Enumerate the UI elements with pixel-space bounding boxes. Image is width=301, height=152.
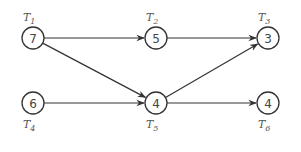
node-label: T4 <box>23 118 35 133</box>
edge-T1-T5 <box>43 43 146 97</box>
node-value: 7 <box>29 32 37 46</box>
node-T5: 4T5 <box>145 92 167 133</box>
edge-T5-T3 <box>166 44 258 97</box>
node-label: T2 <box>146 11 158 26</box>
node-T1: 7T1 <box>22 11 44 49</box>
node-label: T6 <box>258 118 270 133</box>
node-value: 6 <box>29 97 37 111</box>
node-label: T1 <box>23 11 35 26</box>
node-value: 4 <box>264 97 272 111</box>
nodes: 7T15T23T36T44T54T6 <box>22 11 279 133</box>
node-label: T5 <box>146 118 158 133</box>
node-T2: 5T2 <box>145 11 167 49</box>
node-value: 3 <box>264 32 272 46</box>
node-T6: 4T6 <box>257 92 279 133</box>
node-value: 5 <box>152 32 160 46</box>
node-T3: 3T3 <box>257 11 279 49</box>
precedence-graph: 7T15T23T36T44T54T6 <box>0 0 301 152</box>
node-label: T3 <box>258 11 270 26</box>
node-value: 4 <box>152 97 160 111</box>
node-T4: 6T4 <box>22 92 44 133</box>
